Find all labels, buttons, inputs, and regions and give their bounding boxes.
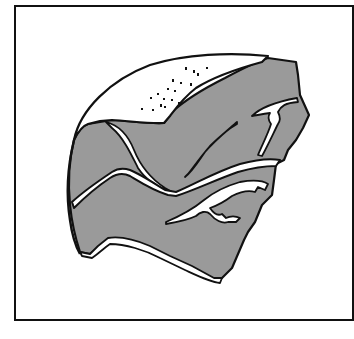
- fragment-drawing: [0, 0, 348, 339]
